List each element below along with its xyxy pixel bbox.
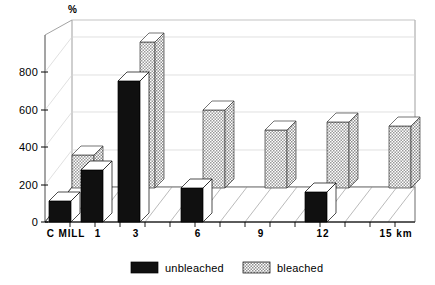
ytick-label-0: 0 [32,216,38,228]
bar-group-15km [389,117,420,188]
bar-unbleached-c-mill [49,192,80,222]
bar-group-9km [265,121,296,188]
bar-front-face [118,81,140,222]
xtick-label-12km: 12 [317,228,330,239]
ytick-label-800: 800 [19,66,38,78]
x-axis [45,222,415,227]
bar-front-face [81,170,103,222]
bar-side-face [411,117,420,188]
xtick-label-c-mill: C MILL [47,228,86,239]
bar-front-face [389,126,411,188]
bar-front-face [265,130,287,188]
ytick-label-600: 600 [19,104,38,116]
left-wall-top-edge [45,20,72,35]
legend-label-bleached: bleached [277,262,323,274]
legend-swatch-unbleached [131,262,158,273]
bar-side-face [225,101,234,188]
bar-side-face [287,121,296,188]
xtick-label-9km: 9 [258,228,264,239]
bar-unbleached-3km [118,72,149,222]
bar-chart-figure: 0 200 400 600 800 % [0,0,435,285]
bar-front-face [305,192,327,222]
gridline-200-left [45,150,72,185]
bar-bleached-12km [327,113,358,188]
xtick-label-15km: 15 km [380,228,413,239]
bar-front-face [203,110,225,188]
chart-legend: unbleached bleached [131,262,323,274]
bar-unbleached-6km [181,179,212,222]
xtick-label-6km: 6 [195,228,201,239]
bar-group-1km [81,161,112,222]
bar-bleached-9km [265,121,296,188]
bar-side-face [103,161,112,222]
bar-unbleached-1km [81,161,112,222]
y-axis-unit-label: % [68,4,77,15]
gridline-600-left [45,75,72,110]
bar-unbleached-12km [305,183,336,222]
xtick-label-3km: 3 [133,228,139,239]
legend-label-unbleached: unbleached [165,262,224,274]
legend-swatch-bleached [243,262,270,273]
gridline-800-left [45,37,72,72]
bar-side-face [155,33,164,188]
bar-bleached-15km [389,117,420,188]
bar-front-face [49,201,71,222]
xtick-label-1km: 1 [95,228,101,239]
chart-canvas: 0 200 400 600 800 % [0,0,435,285]
bar-side-face [349,113,358,188]
bar-front-face [327,122,349,188]
gridline-400-left [45,112,72,147]
ytick-label-400: 400 [19,141,38,153]
ytick-label-200: 200 [19,179,38,191]
bar-front-face [181,188,203,222]
bar-side-face [140,72,149,222]
bar-bleached-6km [203,101,234,188]
